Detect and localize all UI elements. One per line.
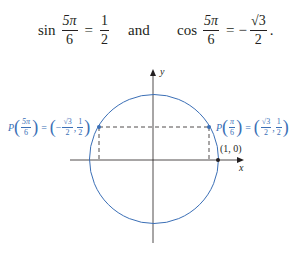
- left-point-label: P ( 5π 6 ) = ( − √3 2 , 1 2 ): [8, 116, 90, 138]
- point-5pi-6: [97, 125, 101, 129]
- right-point-label: P ( π 6 ) = ( √3 2 , 1 2 ): [216, 116, 289, 138]
- point-1-0-label: (1, 0): [220, 143, 242, 154]
- y-axis-label: y: [160, 66, 164, 77]
- point-pi-6: [207, 125, 211, 129]
- unit-circle: [90, 95, 219, 224]
- x-axis-label: x: [239, 162, 243, 173]
- y-axis-arrow-icon: [150, 69, 156, 76]
- point-1-0: [216, 158, 220, 162]
